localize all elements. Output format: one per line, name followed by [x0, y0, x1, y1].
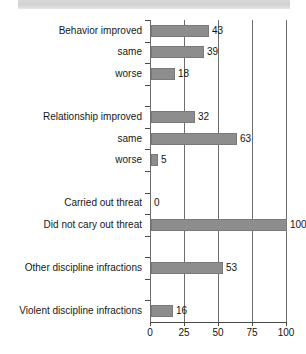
gridline-50	[218, 20, 219, 322]
plot-area	[150, 20, 286, 322]
bar-value-label: 5	[161, 153, 167, 166]
x-axis-tick	[218, 322, 219, 326]
x-axis-label: 0	[135, 327, 165, 338]
bar-value-label: 32	[198, 110, 209, 123]
bar-value-label: 18	[178, 67, 189, 80]
bar-value-label: 16	[176, 304, 187, 317]
bar	[151, 154, 158, 166]
bar	[151, 133, 237, 145]
gridline-75	[252, 20, 253, 322]
x-axis-tick	[150, 322, 151, 326]
x-axis-label: 100	[271, 327, 301, 338]
gridline-25	[184, 20, 185, 322]
gridline-100	[286, 20, 287, 322]
bar-value-label: 100	[290, 218, 306, 231]
bar	[151, 111, 195, 123]
bar-value-label: 63	[240, 132, 251, 145]
bar-value-label: 0	[154, 196, 160, 209]
bar-chart: Behavior improvedsameworseRelationship i…	[0, 9, 306, 354]
bar-value-label: 53	[226, 261, 237, 274]
x-axis-label: 75	[237, 327, 267, 338]
x-axis-tick	[286, 322, 287, 326]
x-axis-label: 50	[203, 327, 233, 338]
category-label: Violent discipline infractions	[0, 298, 142, 324]
x-axis-label: 25	[169, 327, 199, 338]
bar	[151, 305, 173, 317]
bar	[151, 25, 209, 37]
bar	[151, 262, 223, 274]
bar-value-label: 39	[207, 45, 218, 58]
x-axis: 0255075100	[150, 322, 300, 342]
bar	[151, 219, 287, 231]
bar	[151, 68, 175, 80]
bar	[151, 46, 204, 58]
x-axis-tick	[252, 322, 253, 326]
gridline-0	[150, 20, 151, 322]
bar-value-label: 43	[212, 24, 223, 37]
x-axis-tick	[184, 322, 185, 326]
chart-title-banner: threats	[18, 0, 290, 9]
